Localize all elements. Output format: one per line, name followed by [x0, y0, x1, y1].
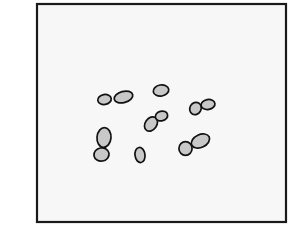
cell-diagram [0, 0, 303, 231]
diagram-stage [0, 0, 303, 231]
cell-br-left [179, 142, 192, 156]
